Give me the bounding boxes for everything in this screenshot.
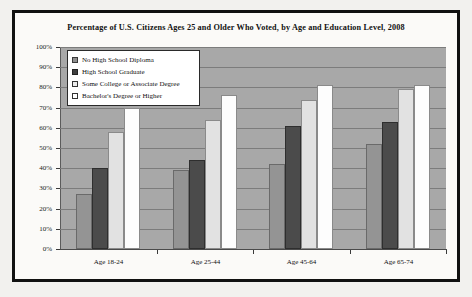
y-axis-tick-label: 50%	[18, 144, 52, 152]
x-axis-tick-mark	[157, 250, 158, 254]
y-axis-tick-mark	[56, 148, 60, 149]
legend-item-label: High School Graduate	[82, 68, 145, 76]
y-axis-tick-label: 10%	[18, 225, 52, 233]
y-axis-tick-label: 100%	[18, 43, 52, 51]
bar	[301, 100, 317, 249]
y-axis-tick-label: 70%	[18, 104, 52, 112]
x-axis-category-label: Age 45-64	[253, 258, 350, 266]
bar	[92, 168, 108, 249]
legend-item-label: Some College or Associate Degree	[82, 80, 180, 88]
legend-item-label: No High School Diploma	[82, 56, 154, 64]
y-axis-tick-label: 40%	[18, 164, 52, 172]
figure-frame: Percentage of U.S. Citizens Ages 25 and …	[12, 10, 460, 282]
bar	[366, 144, 382, 249]
y-axis-tick-label: 80%	[18, 83, 52, 91]
bar	[221, 95, 237, 249]
y-axis-tick-mark	[56, 249, 60, 250]
bar	[269, 164, 285, 249]
gridline	[60, 47, 446, 48]
x-axis-tick-mark	[253, 250, 254, 254]
x-axis-category-label: Age 25-44	[157, 258, 254, 266]
figure-inner: Percentage of U.S. Citizens Ages 25 and …	[15, 13, 457, 279]
bar	[398, 89, 414, 249]
bar	[173, 170, 189, 249]
y-axis-tick-label: 90%	[18, 63, 52, 71]
x-axis-category-label: Age 65-74	[350, 258, 447, 266]
legend-item: High School Graduate	[72, 66, 195, 78]
chart-legend: No High School DiplomaHigh School Gradua…	[67, 50, 200, 106]
bar	[414, 85, 430, 249]
y-axis-tick-mark	[56, 108, 60, 109]
y-axis-tick-label: 20%	[18, 205, 52, 213]
x-axis-category-label: Age 18-24	[60, 258, 157, 266]
legend-swatch-icon	[72, 93, 78, 99]
y-axis-tick-mark	[56, 188, 60, 189]
legend-item: Some College or Associate Degree	[72, 78, 195, 90]
legend-item-label: Bachelor's Degree or Higher	[82, 92, 162, 100]
y-axis-tick-mark	[56, 128, 60, 129]
chart-title: Percentage of U.S. Citizens Ages 25 and …	[15, 23, 457, 32]
y-axis-tick-mark	[56, 67, 60, 68]
legend-swatch-icon	[72, 69, 78, 75]
y-axis-tick-mark	[56, 229, 60, 230]
legend-item: No High School Diploma	[72, 54, 195, 66]
y-axis-tick-label: 60%	[18, 124, 52, 132]
y-axis-tick-label: 0%	[18, 245, 52, 253]
x-axis-tick-mark	[350, 250, 351, 254]
bar	[382, 122, 398, 249]
bar	[317, 85, 333, 249]
bar	[108, 132, 124, 249]
bar	[189, 160, 205, 249]
bar	[205, 120, 221, 249]
y-axis-tick-mark	[56, 47, 60, 48]
legend-swatch-icon	[72, 81, 78, 87]
bar	[76, 194, 92, 249]
x-axis-tick-mark	[446, 250, 447, 254]
y-axis-tick-mark	[56, 168, 60, 169]
scanned-page: Percentage of U.S. Citizens Ages 25 and …	[0, 0, 472, 297]
y-axis-tick-label: 30%	[18, 184, 52, 192]
bar	[285, 126, 301, 249]
gridline	[60, 108, 446, 109]
y-axis-tick-mark	[56, 209, 60, 210]
legend-item: Bachelor's Degree or Higher	[72, 90, 195, 102]
bar	[124, 108, 140, 249]
legend-swatch-icon	[72, 57, 78, 63]
y-axis-tick-mark	[56, 87, 60, 88]
